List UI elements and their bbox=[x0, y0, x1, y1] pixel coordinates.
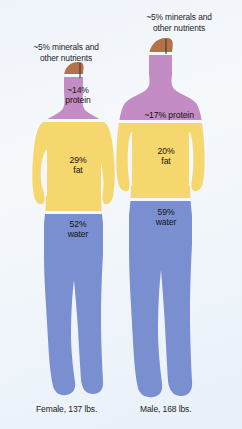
male-caption: Male, 168 lbs. bbox=[140, 404, 192, 414]
female-minerals-annotation: ~5% minerals and other nutrients bbox=[8, 42, 124, 63]
female-water-label: 52% water bbox=[52, 219, 104, 240]
female-divider-3 bbox=[20, 211, 130, 214]
female-protein-label: ~14% protein bbox=[52, 85, 104, 106]
figures-illustration bbox=[0, 0, 242, 429]
female-caption: Female, 137 lbs. bbox=[36, 404, 97, 414]
male-divider-2 bbox=[105, 120, 220, 123]
female-water-band bbox=[20, 214, 130, 404]
female-divider-1 bbox=[20, 74, 130, 77]
male-water-band bbox=[105, 201, 220, 401]
female-divider-2 bbox=[20, 119, 130, 122]
male-water-label: 59% water bbox=[136, 207, 196, 228]
male-protein-label: ~17% protein bbox=[126, 110, 212, 120]
body-composition-infographic: ~5% minerals and other nutrients ~5% min… bbox=[0, 0, 242, 429]
male-divider-3 bbox=[105, 198, 220, 201]
female-fat-label: 29% fat bbox=[52, 155, 104, 176]
male-minerals-annotation: ~5% minerals and other nutrients bbox=[120, 12, 238, 33]
male-fat-label: 20% fat bbox=[136, 146, 196, 167]
